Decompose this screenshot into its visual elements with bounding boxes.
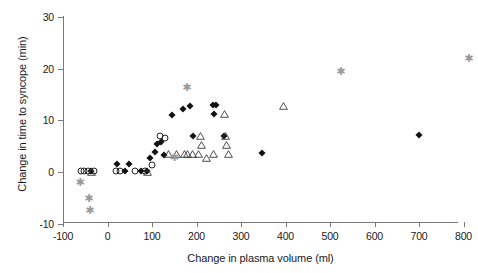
data-point-asterisk: ✱ — [182, 83, 191, 92]
y-axis-title: Change in time to syncope (min) — [16, 14, 28, 214]
data-point-asterisk: ✱ — [85, 205, 94, 214]
data-point-filled-diamond — [259, 150, 266, 157]
data-point-asterisk: ✱ — [464, 53, 473, 62]
data-point-filled-diamond — [147, 155, 154, 162]
data-point-filled-diamond — [169, 112, 176, 119]
data-point-filled-diamond — [151, 148, 158, 155]
data-point-asterisk: ✱ — [75, 177, 84, 186]
data-point-asterisk: ✱ — [336, 67, 345, 76]
x-axis-title: Change in plasma volume (ml) — [63, 252, 458, 264]
data-point-filled-diamond — [122, 167, 129, 174]
data-point-filled-diamond — [415, 131, 422, 138]
data-point-asterisk: ✱ — [84, 193, 93, 202]
data-point-filled-diamond — [125, 160, 132, 167]
data-point-filled-diamond — [114, 160, 121, 167]
data-point-filled-diamond — [187, 102, 194, 109]
data-point-asterisk: ✱ — [170, 153, 179, 162]
data-point-filled-diamond — [211, 110, 218, 117]
